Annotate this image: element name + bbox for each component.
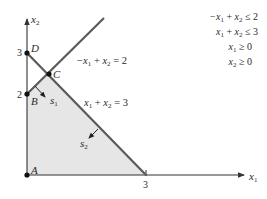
slack-label-s2: s2 <box>80 138 88 151</box>
y-tick-label-2: 2 <box>17 90 22 100</box>
point-A <box>24 172 29 177</box>
x-tick-label-3: 3 <box>143 180 148 190</box>
line-label-x1-plus-x2-eq-3: x1 + x2 = 3 <box>84 98 128 110</box>
point-label-C: C <box>53 69 60 80</box>
feasible-region <box>27 74 146 175</box>
constraint-list: −x1 + x2 ≤ 2 x1 + x2 ≤ 3 x1 ≥ 0 x2 ≥ 0 <box>178 11 258 71</box>
constraint-3: x1 ≥ 0 <box>178 41 258 56</box>
point-C <box>46 71 51 76</box>
point-label-D: D <box>31 43 39 54</box>
slack-label-s1: s1 <box>50 95 58 108</box>
constraint-1: −x1 + x2 ≤ 2 <box>178 11 258 26</box>
point-label-B: B <box>31 96 38 107</box>
y-tick-label-3: 3 <box>17 48 22 58</box>
lp-feasible-region-diagram: x2 x1 3 2 3 D C B A s1 s2 −x1 + x2 = 2 x… <box>0 0 267 199</box>
line-label-neg-x1-plus-x2-eq-2: −x1 + x2 = 2 <box>76 56 127 68</box>
x1-axis-label: x1 <box>249 171 257 184</box>
constraint-2: x1 + x2 ≤ 3 <box>178 26 258 41</box>
point-B <box>24 91 29 96</box>
point-D <box>24 50 29 55</box>
x2-axis-label: x2 <box>31 14 39 27</box>
constraint-4: x2 ≥ 0 <box>178 56 258 71</box>
point-label-A: A <box>31 165 38 176</box>
